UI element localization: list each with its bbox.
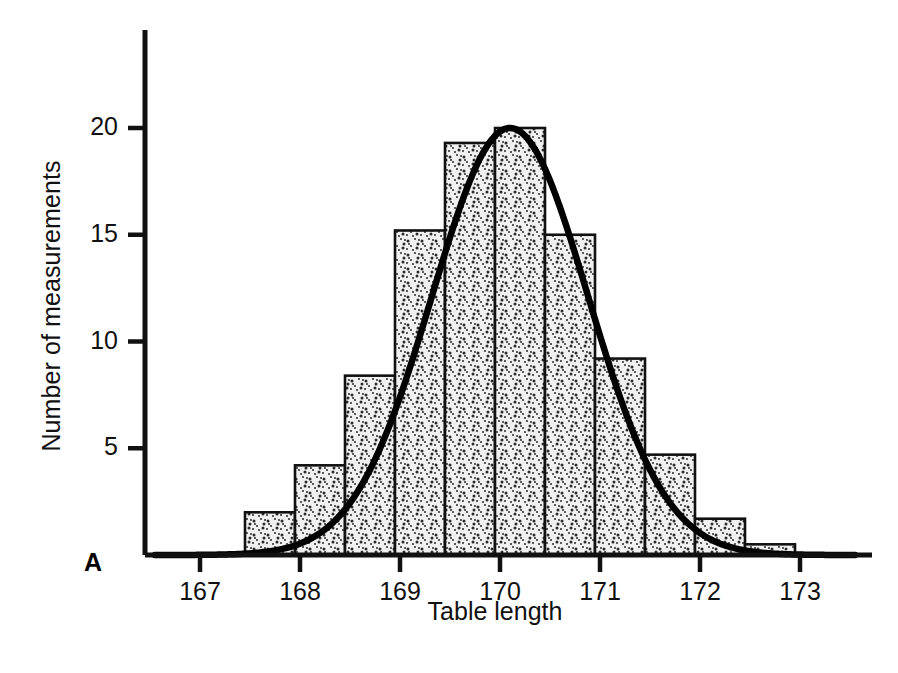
x-tick-label: 167 bbox=[160, 577, 240, 606]
x-tick-label: 171 bbox=[560, 577, 640, 606]
x-tick-label: 173 bbox=[760, 577, 840, 606]
y-tick-label: 20 bbox=[62, 112, 118, 141]
histogram-bar bbox=[495, 128, 545, 555]
x-tick-label: 170 bbox=[460, 577, 540, 606]
histogram-plot-area bbox=[0, 0, 898, 673]
histogram-figure: Number of measurements Table length A 51… bbox=[0, 0, 898, 673]
x-tick-label: 172 bbox=[660, 577, 740, 606]
x-tick-label: 168 bbox=[260, 577, 340, 606]
y-tick-label: 15 bbox=[62, 219, 118, 248]
panel-letter-a: A bbox=[84, 548, 102, 577]
histogram-bar bbox=[445, 143, 495, 555]
histogram-bars bbox=[245, 128, 795, 555]
x-tick-label: 169 bbox=[360, 577, 440, 606]
y-tick-label: 5 bbox=[62, 432, 118, 461]
histogram-bar bbox=[545, 235, 595, 555]
y-tick-label: 10 bbox=[62, 326, 118, 355]
